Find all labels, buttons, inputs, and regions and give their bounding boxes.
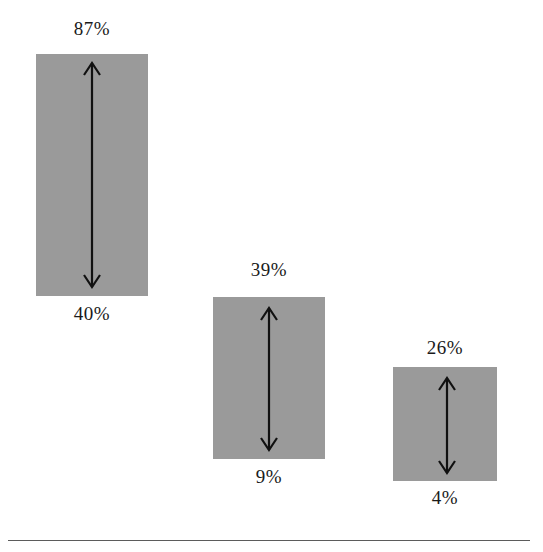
bar-2-lower-label: 9% [189,466,349,488]
bar-1-lower-label: 40% [12,303,172,325]
bar-3-lower-label: 4% [365,487,525,509]
range-arrow-1 [78,62,106,288]
baseline-rule [8,540,530,541]
bar-3-upper-label: 26% [365,337,525,359]
bar-1-upper-label: 87% [12,18,172,40]
bar-2-upper-label: 39% [189,259,349,281]
range-bar-chart: 87% 40% 39% 9% 26% 4% [0,0,543,552]
range-arrow-2 [255,307,283,451]
range-arrow-3 [433,377,461,474]
